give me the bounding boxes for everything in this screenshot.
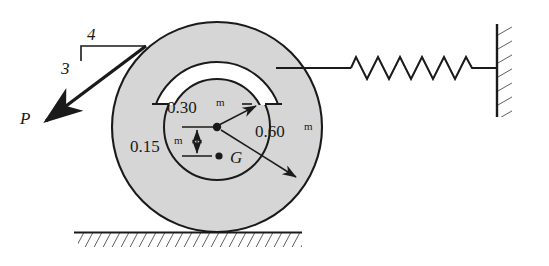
inner-radius-unit: m bbox=[216, 96, 225, 108]
cg-offset-unit: m bbox=[174, 134, 183, 146]
center-of-gravity-point bbox=[215, 152, 222, 159]
spring-coils bbox=[351, 57, 496, 79]
center-of-gravity-label: G bbox=[230, 148, 242, 167]
cg-offset-value: 0.15 bbox=[130, 137, 160, 156]
diagram-canvas: G 0.30 m 0.60 m 0.15 m 4 3 P bbox=[0, 0, 549, 266]
outer-radius-value: 0.60 bbox=[255, 122, 285, 141]
mechanics-figure: G 0.30 m 0.60 m 0.15 m 4 3 P bbox=[0, 0, 549, 266]
outer-radius-unit: m bbox=[304, 120, 313, 132]
inner-radius-value: 0.30 bbox=[167, 98, 197, 117]
ground-hatching bbox=[78, 233, 302, 247]
wall-hatching bbox=[497, 24, 512, 117]
force-P-label: P bbox=[19, 109, 30, 128]
slope-run-label: 4 bbox=[87, 25, 96, 44]
slope-rise-label: 3 bbox=[60, 59, 70, 78]
ground-surface bbox=[74, 233, 302, 248]
